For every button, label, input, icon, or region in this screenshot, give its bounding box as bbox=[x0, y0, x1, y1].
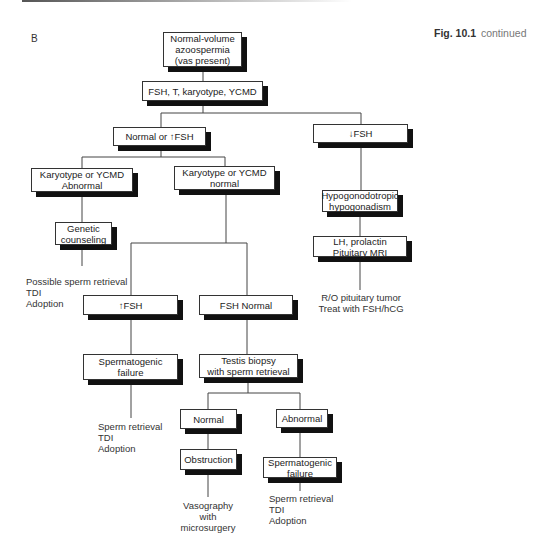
node-normal-or-high-fsh: Normal or ↑FSH bbox=[113, 127, 206, 146]
node-hypogonadotropic: Hypogonodotropic hypogonadism bbox=[322, 190, 398, 212]
node-obstruction: Obstruction bbox=[180, 449, 237, 470]
node-lh-prolactin: LH, prolactin Pituitary MRI bbox=[313, 236, 407, 257]
outcome-obstruction: Vasography with microsurgery bbox=[172, 500, 244, 533]
node-testis-biopsy: Testis biopsy with sperm retrieval bbox=[199, 354, 298, 378]
node-karyotype-normal: Karyotype or YCMD normal bbox=[174, 166, 275, 190]
node-spermatogenic-failure-2: Spermatogenic failure bbox=[263, 457, 337, 478]
node-spermatogenic-failure-1: Spermatogenic failure bbox=[83, 354, 178, 380]
outcome-spermatogenic-1: Sperm retrieval TDI Adoption bbox=[98, 421, 162, 454]
node-genetic-counseling: Genetic counseling bbox=[55, 222, 112, 245]
outcome-pituitary: R/O pituitary tumor Treat with FSH/hCG bbox=[308, 292, 414, 314]
node-biopsy-abnormal: Abnormal bbox=[276, 409, 328, 428]
outcome-genetic: Possible sperm retrieval TDI Adoption bbox=[26, 276, 127, 309]
node-fsh-normal: FSH Normal bbox=[199, 295, 293, 315]
node-root: Normal-volume azoospermia (vas present) bbox=[163, 32, 242, 67]
node-tests: FSH, T, karyotype, YCMD bbox=[142, 81, 263, 101]
node-karyotype-abnormal: Karyotype or YCMD Abnormal bbox=[31, 168, 133, 192]
outcome-spermatogenic-2: Sperm retrieval TDI Adoption bbox=[269, 493, 333, 526]
node-low-fsh: ↓FSH bbox=[313, 124, 408, 143]
node-biopsy-normal: Normal bbox=[180, 409, 237, 429]
